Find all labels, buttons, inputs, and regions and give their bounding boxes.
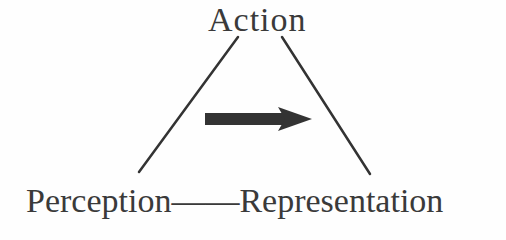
edge-action-representation (282, 37, 370, 174)
edge-perception-representation: —— (171, 182, 239, 219)
right-arrow-icon (205, 107, 312, 131)
node-perception: Perception (26, 182, 171, 219)
node-action: Action (208, 3, 307, 37)
node-representation: Representation (239, 182, 443, 219)
bottom-row: Perception——Representation (26, 184, 443, 218)
edge-action-perception (139, 37, 238, 172)
diagram-canvas: Action Perception——Representation (0, 0, 506, 240)
